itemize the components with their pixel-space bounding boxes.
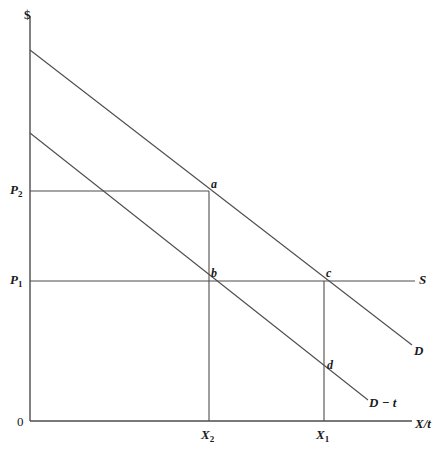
- quantity-label-x2: X2: [201, 428, 214, 441]
- x-axis-label: X/t: [415, 417, 431, 430]
- price-label-p1-subscript: 1: [18, 279, 23, 289]
- curve-label-demand: D: [414, 344, 423, 357]
- y-axis-label: $: [24, 8, 31, 21]
- origin-label: 0: [17, 415, 24, 428]
- price-label-p1: P1: [10, 273, 22, 286]
- price-label-p1-base: P: [10, 272, 18, 287]
- point-label-b: b: [211, 267, 217, 279]
- point-label-d: d: [327, 359, 333, 371]
- price-label-p2: P2: [10, 183, 22, 196]
- curve-label-demand-after-tax: D − t: [369, 396, 396, 409]
- quantity-label-x1: X1: [316, 428, 329, 441]
- curve-label-supply: S: [419, 273, 426, 286]
- price-label-p2-base: P: [10, 182, 18, 197]
- quantity-label-x1-subscript: 1: [325, 434, 330, 444]
- price-label-p2-subscript: 2: [18, 189, 23, 199]
- quantity-label-x1-base: X: [316, 427, 325, 442]
- point-label-c: c: [326, 267, 331, 279]
- demand-curve-line: [30, 50, 412, 345]
- quantity-label-x2-base: X: [201, 427, 210, 442]
- supply-demand-tax-diagram: $ 0 X/t P2 P1 X2 X1 D D − t S a b c d: [0, 0, 443, 454]
- point-label-a: a: [211, 178, 217, 190]
- demand-after-tax-curve-line: [30, 133, 368, 400]
- diagram-canvas: [0, 0, 443, 454]
- quantity-label-x2-subscript: 2: [210, 434, 215, 444]
